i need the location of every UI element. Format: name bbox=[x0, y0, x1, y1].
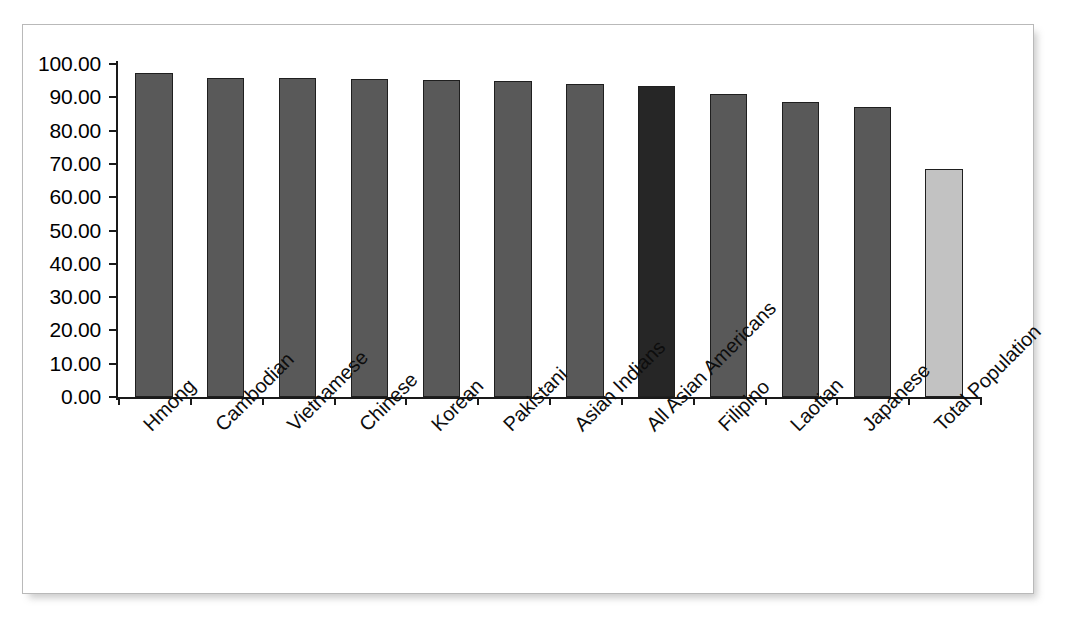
x-tick-mark bbox=[477, 397, 479, 405]
x-category-label: Total Population bbox=[929, 320, 1045, 436]
x-category-label: Chinese bbox=[355, 368, 423, 436]
plot-area: 100.0090.0080.0070.0060.0050.0040.0030.0… bbox=[23, 25, 1035, 595]
chart-frame: 100.0090.0080.0070.0060.0050.0040.0030.0… bbox=[22, 24, 1034, 594]
x-tick-mark bbox=[262, 397, 264, 405]
x-category-label: All Asian Americans bbox=[642, 297, 781, 436]
x-tick-mark bbox=[765, 397, 767, 405]
x-tick-mark bbox=[621, 397, 623, 405]
x-tick-mark bbox=[908, 397, 910, 405]
x-tick-mark bbox=[693, 397, 695, 405]
x-tick-mark bbox=[980, 397, 982, 405]
x-tick-mark bbox=[334, 397, 336, 405]
x-tick-mark bbox=[405, 397, 407, 405]
x-tick-mark bbox=[549, 397, 551, 405]
clipped-caption-strip bbox=[0, 0, 1072, 11]
x-tick-mark bbox=[836, 397, 838, 405]
x-category-label: Filipino bbox=[714, 375, 775, 436]
x-category-label: Pakistani bbox=[498, 363, 571, 436]
x-axis: HmongCambodianVietnameseChineseKoreanPak… bbox=[23, 25, 1035, 595]
x-tick-mark bbox=[190, 397, 192, 405]
x-category-label: Korean bbox=[426, 375, 487, 436]
x-category-label: Hmong bbox=[139, 374, 201, 436]
x-category-label: Laotian bbox=[786, 374, 848, 436]
x-category-label: Japanese bbox=[857, 359, 934, 436]
x-tick-mark bbox=[118, 397, 120, 405]
